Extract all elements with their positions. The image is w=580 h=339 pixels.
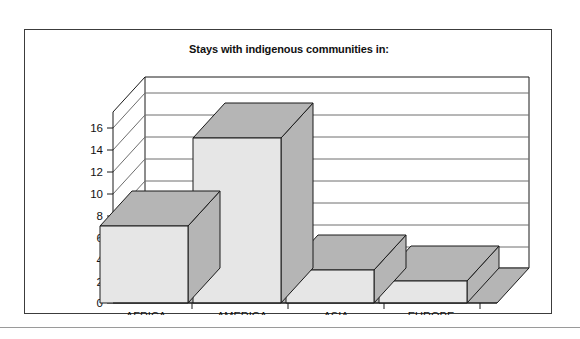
figure-page: Stays with indigenous communities in: <box>0 0 580 339</box>
footer-separator-rule <box>0 327 580 328</box>
cat-label-africa-line1: AFRICA <box>126 310 167 315</box>
category-axis-ticks <box>192 303 480 309</box>
depth-line-10 <box>113 159 145 194</box>
depth-line-12 <box>113 137 145 172</box>
cat-label-asia-line1: ASIA <box>323 310 349 315</box>
ytick-label-14: 14 <box>90 144 103 156</box>
bar-chart-svg: 16 14 12 10 8 6 4 2 0 <box>25 30 553 315</box>
figure-frame: Stays with indigenous communities in: <box>24 29 552 314</box>
bar-africa-front <box>100 226 188 303</box>
bar-africa[interactable] <box>100 191 220 303</box>
ytick-label-8: 8 <box>97 210 103 222</box>
ytick-label-12: 12 <box>90 166 103 178</box>
cat-label-america-line1: AMERICA <box>217 310 268 315</box>
chart-plot-area: 16 14 12 10 8 6 4 2 0 <box>25 30 553 315</box>
ytick-label-10: 10 <box>90 188 103 200</box>
bar-europe-front <box>379 281 467 303</box>
depth-line-14 <box>113 115 145 150</box>
wall-top-diagonal <box>113 77 145 112</box>
cat-label-europe-line1: EUROPE <box>408 310 454 315</box>
depth-line-16 <box>113 93 145 128</box>
ytick-label-16: 16 <box>90 122 103 134</box>
category-labels: AFRICA TOTAL AMERICA TOTAL ASIA TOTAL EU… <box>126 310 454 315</box>
